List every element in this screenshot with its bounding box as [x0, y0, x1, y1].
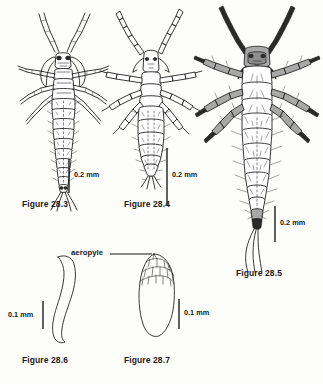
figure-28-6-drawing — [34, 250, 94, 345]
scale-bar-28-4-line — [164, 147, 170, 207]
figure-plate: 0.2 mm Figure 28.3 — [0, 0, 323, 384]
larva-28-4-antennae — [116, 9, 183, 55]
caption-figure-28-6: Figure 28.6 — [22, 355, 68, 365]
page-bleed-through — [14, 372, 323, 382]
caption-figure-28-5: Figure 28.5 — [236, 268, 282, 278]
figure-28-7 — [124, 250, 194, 345]
figure-28-7-drawing — [124, 250, 194, 345]
larva-28-5-head — [244, 46, 270, 68]
larva-28-4-cerci — [141, 176, 161, 189]
figure-28-6 — [34, 250, 94, 345]
larva-28-3-thorax — [52, 69, 75, 101]
caption-figure-28-7: Figure 28.7 — [124, 355, 170, 365]
scale-label-28-3: 0.2 mm — [74, 170, 99, 179]
aeropyle-leader-line — [110, 250, 155, 260]
larva-28-4-head — [143, 50, 159, 73]
scale-label-28-7: 0.1 mm — [184, 308, 209, 317]
aeropyle-label: aeropyle — [71, 248, 103, 257]
larva-28-4-thorax — [139, 72, 163, 111]
larva-28-3-antennae — [39, 13, 90, 52]
caption-figure-28-3: Figure 28.3 — [22, 199, 68, 209]
figure-28-5 — [198, 4, 323, 254]
figure-28-5-drawing — [198, 4, 323, 254]
figure-28-4-drawing — [104, 6, 212, 191]
scale-bar-28-7-line — [176, 298, 182, 330]
larva-28-5-abdomen — [231, 113, 283, 213]
scale-label-28-6: 0.1 mm — [8, 310, 33, 319]
figure-28-4 — [104, 6, 212, 191]
scale-bar-28-5-line — [272, 205, 278, 243]
caption-figure-28-4: Figure 28.4 — [124, 199, 170, 209]
larva-28-5-terminal-segments — [245, 209, 269, 230]
larva-28-5-thorax — [242, 66, 272, 118]
scale-bar-28-3-line — [66, 158, 72, 194]
scale-bar-28-6-line — [40, 300, 46, 330]
larva-28-5-caudal-filaments — [246, 229, 262, 272]
scale-label-28-4: 0.2 mm — [172, 170, 197, 179]
scale-label-28-5: 0.2 mm — [280, 218, 305, 227]
larva-28-3-head — [55, 53, 71, 69]
